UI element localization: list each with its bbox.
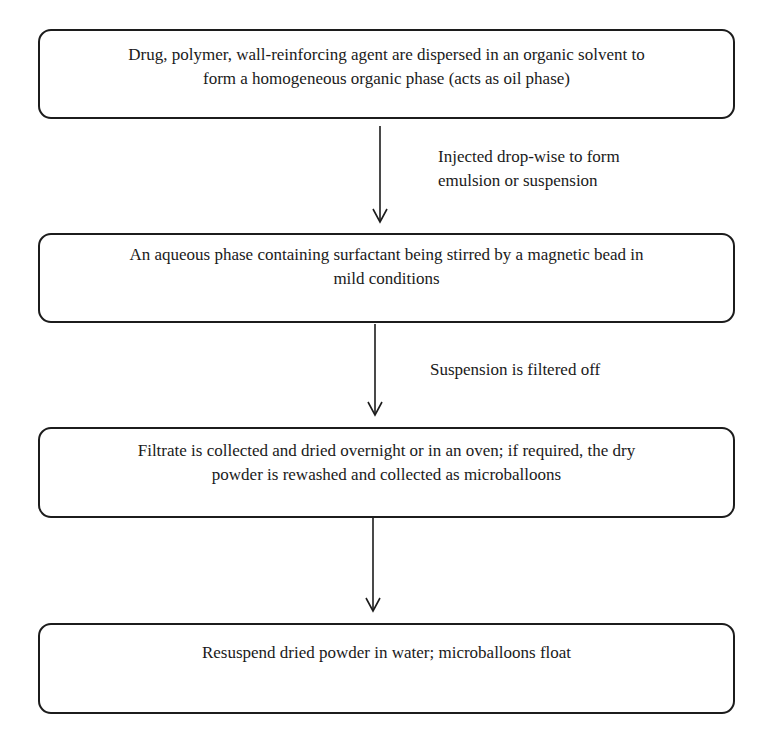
arrow-down-icon xyxy=(366,598,380,611)
flow-step-3-text-line-1: Filtrate is collected and dried overnigh… xyxy=(70,439,703,463)
transition-1-label: Injected drop-wise to form emulsion or s… xyxy=(438,145,620,193)
flow-step-2-text-line-2: mild conditions xyxy=(70,267,703,291)
flow-step-3-box: Filtrate is collected and dried overnigh… xyxy=(38,427,735,518)
flow-step-4-box: Resuspend dried powder in water; microba… xyxy=(38,623,735,714)
flow-step-4-text-line-1: Resuspend dried powder in water; microba… xyxy=(70,641,703,665)
arrow-step2-to-step3 xyxy=(368,324,382,415)
arrow-step1-to-step2 xyxy=(373,126,387,222)
flow-step-1-text-line-1: Drug, polymer, wall-reinforcing agent ar… xyxy=(70,43,703,67)
transition-1-label-line-1: Injected drop-wise to form xyxy=(438,145,620,169)
transition-1-label-line-2: emulsion or suspension xyxy=(438,169,620,193)
transition-2-label: Suspension is filtered off xyxy=(430,358,600,382)
flow-step-1-text-line-2: form a homogeneous organic phase (acts a… xyxy=(70,67,703,91)
arrow-down-icon xyxy=(368,402,382,415)
flow-step-3-text-line-2: powder is rewashed and collected as micr… xyxy=(70,463,703,487)
flow-step-2-text-line-1: An aqueous phase containing surfactant b… xyxy=(70,243,703,267)
flow-step-2-box: An aqueous phase containing surfactant b… xyxy=(38,233,735,323)
arrow-down-icon xyxy=(373,209,387,222)
arrow-step3-to-step4 xyxy=(366,518,380,611)
transition-2-label-line-1: Suspension is filtered off xyxy=(430,358,600,382)
flow-step-1-box: Drug, polymer, wall-reinforcing agent ar… xyxy=(38,29,735,119)
